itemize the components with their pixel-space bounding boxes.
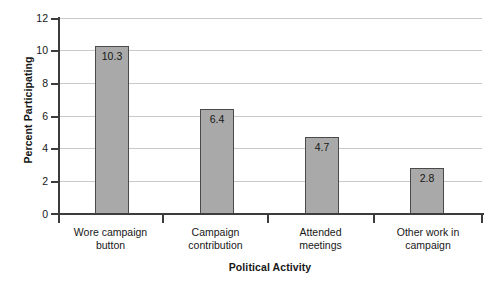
x-category-line-2: meetings (268, 239, 373, 252)
bar-value-label: 2.8 (411, 173, 443, 185)
y-tick-label-4: 4 (2, 143, 48, 154)
x-tick-mark-0 (58, 215, 60, 223)
x-category-label-other-work-in-campaign: Other work in campaign (374, 226, 482, 253)
x-axis-line (58, 213, 484, 215)
x-category-label-attended-meetings: Attended meetings (268, 226, 373, 253)
bar-value-label: 10.3 (96, 51, 128, 63)
bar-value-label: 4.7 (306, 142, 338, 154)
bar-wore-campaign-button: 10.3 (95, 46, 129, 214)
y-axis-line (58, 17, 60, 215)
bar-other-work-in-campaign: 2.8 (410, 168, 444, 214)
y-tick-label-6: 6 (2, 111, 48, 122)
gridline-12 (58, 18, 482, 19)
x-category-line-1: Other work in (374, 226, 482, 239)
x-category-line-1: Attended (268, 226, 373, 239)
y-tick-label-8: 8 (2, 78, 48, 89)
x-category-label-campaign-contribution: Campaign contribution (163, 226, 268, 253)
x-category-label-wore-campaign-button: Wore campaign button (58, 226, 163, 253)
bar-campaign-contribution: 6.4 (200, 109, 234, 214)
y-tick-label-10: 10 (2, 45, 48, 56)
x-category-line-2: contribution (163, 239, 268, 252)
y-axis-tick-labels: 12 10 8 6 4 2 0 (0, 0, 48, 287)
bar-chart: Percent Participating 12 10 8 6 4 2 0 10… (0, 0, 500, 287)
x-category-line-1: Wore campaign (58, 226, 163, 239)
x-tick-mark-4 (481, 215, 483, 223)
x-axis-title: Political Activity (58, 261, 482, 273)
x-category-line-2: campaign (374, 239, 482, 252)
x-category-line-1: Campaign (163, 226, 268, 239)
x-tick-mark-3 (373, 215, 375, 223)
bar-value-label: 6.4 (201, 114, 233, 126)
x-tick-mark-1 (162, 215, 164, 223)
x-tick-mark-2 (267, 215, 269, 223)
x-category-line-2: button (58, 239, 163, 252)
bar-attended-meetings: 4.7 (305, 137, 339, 214)
plot-area: 10.3 6.4 4.7 2.8 (58, 18, 482, 214)
y-tick-label-0: 0 (2, 209, 48, 220)
y-tick-label-12: 12 (2, 13, 48, 24)
y-tick-label-2: 2 (2, 176, 48, 187)
